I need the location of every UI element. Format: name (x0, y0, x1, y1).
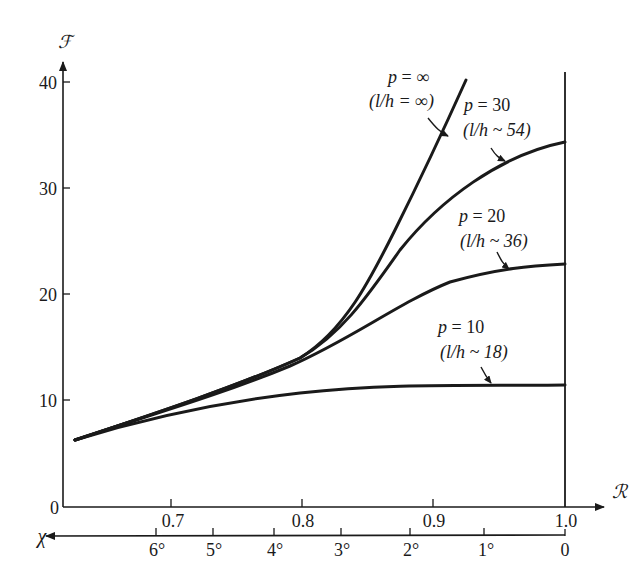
label-p30: p = 30 (462, 95, 510, 115)
curve-p30 (75, 142, 565, 440)
label-p20: p = 20 (457, 206, 505, 226)
chi-tick-label: 1° (478, 540, 494, 560)
chi-tick-label: 3° (334, 540, 350, 560)
y-axis-label: ℱ (58, 32, 75, 52)
label-p20-lh: (l/h ~ 36) (460, 231, 528, 252)
x-tick-label: 0.8 (292, 511, 315, 531)
chi-tick-label: 6° (149, 540, 165, 560)
label-p-inf-lh: (l/h = ∞) (369, 91, 434, 112)
y-axis: ℱ 40 30 20 10 0 (39, 32, 75, 518)
chi-axis-label: χ (36, 525, 48, 548)
chi-tick-label: 0 (561, 540, 570, 560)
label-p10-lh: (l/h ~ 18) (440, 342, 508, 363)
x-tick-label: 0.7 (162, 511, 185, 531)
y-tick-label: 40 (39, 73, 57, 93)
chart: ℱ 40 30 20 10 0 0.7 0.8 0.9 1.0 ℛ χ 6° 5… (0, 0, 642, 587)
curve-p10 (75, 385, 565, 440)
x-axis-label: ℛ (612, 481, 629, 502)
y-tick-label: 20 (39, 285, 57, 305)
y-tick-label: 0 (50, 498, 59, 518)
y-tick-label: 30 (39, 179, 57, 199)
x-axis: 0.7 0.8 0.9 1.0 ℛ (63, 481, 629, 531)
label-p-inf: p = ∞ (386, 67, 429, 87)
chi-tick-label: 4° (267, 540, 283, 560)
label-p30-lh: (l/h ~ 54) (463, 120, 531, 141)
chi-tick-label: 2° (403, 540, 419, 560)
label-p10: p = 10 (436, 317, 484, 337)
x-tick-label: 1.0 (555, 511, 578, 531)
y-tick-label: 10 (39, 391, 57, 411)
x-tick-label: 0.9 (423, 511, 446, 531)
chi-tick-label: 5° (206, 540, 222, 560)
